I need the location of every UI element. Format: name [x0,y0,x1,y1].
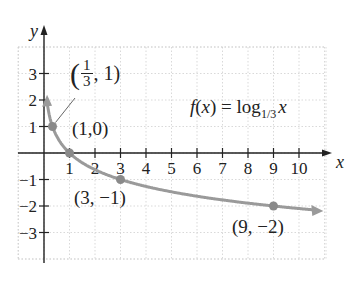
log-function-chart: xy 12345678910−3−2−1123 [0,0,360,303]
x-tick-label: 1 [65,159,74,178]
y-tick-label: −1 [19,171,37,190]
point-label-3-neg1: (3, −1) [74,187,126,209]
key-point [65,149,74,158]
x-axis-arrow-icon [322,150,332,157]
y-tick-label: 1 [29,118,38,137]
key-point [48,122,57,131]
y-tick-label: 2 [29,91,38,110]
function-eq: ) = log [210,96,261,117]
y-tick-label: −3 [19,224,37,243]
x-tick-label: 7 [218,159,227,178]
x-tick-label: 6 [193,159,202,178]
point-label-third: ( 1 3 , 1) [70,58,120,89]
x-tick-label: 9 [269,159,278,178]
log-base: 1/3 [261,107,276,121]
fraction: 1 3 [81,58,93,89]
point-label-9-neg2: (9, −2) [232,216,284,238]
function-label: f(x) = log1/3x [190,96,287,122]
curve-arrow-right-icon [311,205,323,216]
point-label-1-0: (1,0) [72,118,108,140]
log-arg: x [278,96,286,117]
key-point [269,202,278,211]
key-point [116,175,125,184]
y-tick-label: 3 [29,65,38,84]
paren-open: ( [70,59,80,89]
x-axis-label: x [335,152,344,172]
x-tick-label: 10 [291,159,308,178]
y-axis-label: y [28,21,38,41]
x-tick-label: 8 [244,159,253,178]
axes: xy [18,21,344,263]
x-tick-label: 4 [142,159,151,178]
x-tick-label: 5 [167,159,176,178]
y-axis-arrow-icon [41,25,48,35]
fraction-numerator: 1 [81,58,93,74]
fraction-denominator: 3 [83,74,91,89]
y-tick-label: −2 [19,197,37,216]
function-var: x [202,96,210,117]
paren-rest: , 1) [94,62,121,85]
